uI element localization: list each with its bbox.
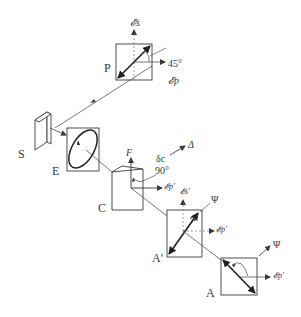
sample-label: S (18, 148, 25, 160)
polarizer-s-field-label: 𝓔s (130, 18, 140, 28)
analyzer-psi-label: Ψ (273, 240, 280, 250)
ellipse-box (63, 125, 112, 172)
compensator-p-field-label: 𝓔p' (164, 183, 175, 191)
analyzer-prime-label: A' (152, 252, 163, 264)
sample-plate (35, 112, 51, 150)
analyzer-prime-psi-label: Ψ (211, 195, 218, 205)
analyzer-box (221, 246, 270, 295)
compensator-fast-axis-label: F (126, 148, 132, 158)
compensator-label: C (98, 202, 106, 214)
polarizer-angle-label: 45° (168, 59, 182, 69)
analyzer-label: A (206, 287, 215, 299)
analyzer-prime-p-field-label: 𝓔p' (216, 226, 227, 234)
compensator-retardance-label: δc (156, 154, 165, 164)
diagram-canvas (0, 0, 301, 317)
compensator-angle-label: 90° (155, 166, 169, 176)
analyzer-p-field-label: 𝓔p' (273, 272, 284, 280)
analyzer-prime-s-field-label: 𝓔s' (180, 188, 190, 196)
analyzer-prime-box (167, 200, 221, 260)
polarizer-box (116, 30, 166, 80)
polarizer-p-field-label: 𝓔p (168, 76, 179, 86)
ellipse-label: E (52, 165, 59, 177)
compensator-delta-label: Δ (188, 140, 194, 150)
beam-incident (55, 66, 152, 128)
beam-reflected (50, 128, 66, 135)
polarizer-label: P (104, 62, 111, 74)
compensator-box (112, 146, 185, 216)
